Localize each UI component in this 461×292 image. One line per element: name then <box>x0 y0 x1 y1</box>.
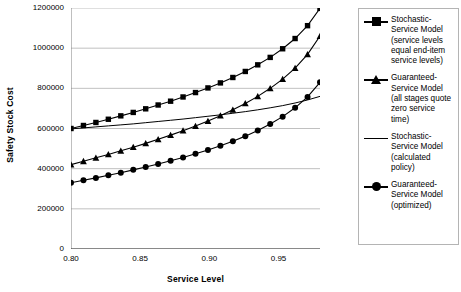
x-axis-title-wrap: Service Level <box>71 268 320 286</box>
data-point-marker <box>192 123 199 129</box>
data-point-marker <box>180 154 186 160</box>
data-point-marker <box>217 143 223 149</box>
data-point-marker <box>230 138 236 144</box>
data-point-marker <box>205 147 211 153</box>
legend-marker-triangle-icon <box>364 74 388 86</box>
data-point-marker <box>292 105 298 111</box>
series-0 <box>71 8 320 131</box>
data-point-marker <box>80 177 86 183</box>
legend-label: Guaranteed-Service Model (optimized) <box>388 180 454 211</box>
legend-marker-square-icon <box>364 16 388 28</box>
data-point-marker <box>168 98 173 103</box>
data-point-marker <box>317 79 320 85</box>
legend-item[interactable]: Stochastic-Service Model (service levels… <box>364 15 454 66</box>
x-tick-label: 0.90 <box>189 254 229 263</box>
data-point-marker <box>229 106 236 112</box>
data-point-marker <box>143 106 148 111</box>
data-point-marker <box>267 121 273 127</box>
y-tick-label: 1200000 <box>8 3 64 12</box>
x-axis-title: Service Level <box>167 274 224 284</box>
x-tick-label: 0.80 <box>51 254 91 263</box>
data-point-marker <box>93 175 99 181</box>
legend-item[interactable]: Guaranteed-Service Model (optimized) <box>364 180 454 211</box>
data-point-marker <box>205 118 212 124</box>
legend-label: Guaranteed-Service Model (all stages quo… <box>388 73 454 124</box>
data-point-marker <box>268 55 273 60</box>
data-point-marker <box>317 8 320 11</box>
y-tick-label: 1000000 <box>8 43 64 52</box>
data-point-marker <box>280 46 285 51</box>
data-point-marker <box>317 33 320 39</box>
data-point-marker <box>180 94 185 99</box>
data-point-marker <box>305 94 311 100</box>
data-point-marker <box>242 100 249 106</box>
data-point-marker <box>255 62 260 67</box>
data-point-marker <box>118 113 123 118</box>
series-line <box>71 36 320 165</box>
data-point-marker <box>106 117 111 122</box>
data-point-marker <box>155 161 161 167</box>
data-point-marker <box>193 90 198 95</box>
data-point-marker <box>131 110 136 115</box>
legend-item[interactable]: Stochastic-Service Model (calculated pol… <box>364 132 454 173</box>
y-tick-label: 0 <box>8 244 64 253</box>
data-point-marker <box>205 85 210 90</box>
data-point-marker <box>105 172 111 178</box>
data-point-marker <box>143 164 149 170</box>
data-point-marker <box>242 133 248 139</box>
legend-label: Stochastic-Service Model (calculated pol… <box>388 132 454 173</box>
data-point-marker <box>167 132 174 138</box>
chart-container: Safety Stock Cost 0200000400000600000800… <box>0 0 461 292</box>
legend-label: Stochastic-Service Model (service levels… <box>388 15 454 66</box>
data-point-marker <box>168 158 174 164</box>
data-point-marker <box>155 102 160 107</box>
y-tick-label: 800000 <box>8 83 64 92</box>
series-line <box>71 8 320 128</box>
series-3 <box>71 79 320 185</box>
data-point-marker <box>71 180 74 186</box>
legend-marker-circle-icon <box>364 181 388 193</box>
data-point-marker <box>118 170 124 176</box>
legend-item[interactable]: Guaranteed-Service Model (all stages quo… <box>364 73 454 124</box>
chart-legend: Stochastic-Service Model (service levels… <box>358 8 459 245</box>
data-point-marker <box>218 80 223 85</box>
x-tick-label: 0.95 <box>259 254 299 263</box>
y-tick-label: 400000 <box>8 164 64 173</box>
data-point-marker <box>130 167 136 173</box>
y-tick-label: 600000 <box>8 124 64 133</box>
y-tick-label: 200000 <box>8 204 64 213</box>
plot-area <box>71 8 320 249</box>
data-point-marker <box>243 69 248 74</box>
data-point-marker <box>193 151 199 157</box>
x-tick-label: 0.85 <box>120 254 160 263</box>
data-point-marker <box>254 93 261 99</box>
series-line <box>71 82 320 182</box>
series-1 <box>71 33 320 168</box>
data-point-marker <box>292 36 297 41</box>
data-point-marker <box>255 128 261 134</box>
legend-marker-none-icon <box>364 133 388 145</box>
data-point-marker <box>230 75 235 80</box>
plot-svg <box>71 8 320 249</box>
data-point-marker <box>304 51 311 57</box>
data-point-marker <box>305 23 310 28</box>
data-point-marker <box>280 114 286 120</box>
data-point-marker <box>93 120 98 125</box>
